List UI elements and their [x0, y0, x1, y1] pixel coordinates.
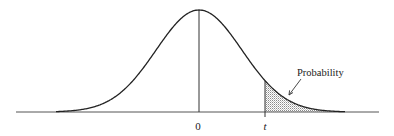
density-curve — [56, 10, 345, 112]
center-tick-label: 0 — [195, 120, 201, 132]
critical-value-label: t — [263, 120, 267, 132]
t-distribution-figure: 0 t Probability — [0, 0, 394, 136]
probability-label: Probability — [297, 67, 344, 78]
annotation-arrow — [289, 79, 301, 95]
